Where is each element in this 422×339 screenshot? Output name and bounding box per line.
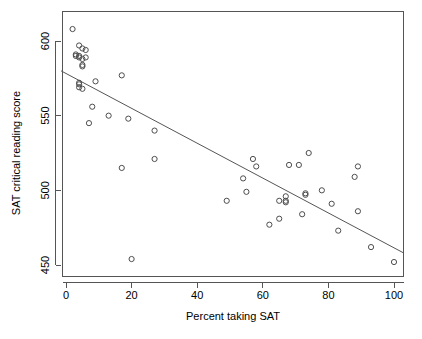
x-axis-tick-label: 40 [191, 289, 203, 301]
y-axis-tick-label: 450 [39, 256, 51, 274]
x-axis-tick-label: 60 [257, 289, 269, 301]
x-axis-title: Percent taking SAT [186, 310, 280, 322]
y-axis-tick-label: 600 [39, 32, 51, 50]
x-axis-tick-label: 80 [322, 289, 334, 301]
x-axis-tick-label: 20 [125, 289, 137, 301]
chart-canvas: 020406080100 450500550600 Percent taking… [0, 0, 422, 339]
y-axis-tick-label: 550 [39, 106, 51, 124]
y-axis-tick-label: 500 [39, 181, 51, 199]
x-axis-tick-label: 100 [385, 289, 403, 301]
scatter-plot-figure: 020406080100 450500550600 Percent taking… [0, 0, 422, 339]
y-axis-title: SAT critical reading score [10, 91, 22, 215]
x-axis-tick-label: 0 [63, 289, 69, 301]
